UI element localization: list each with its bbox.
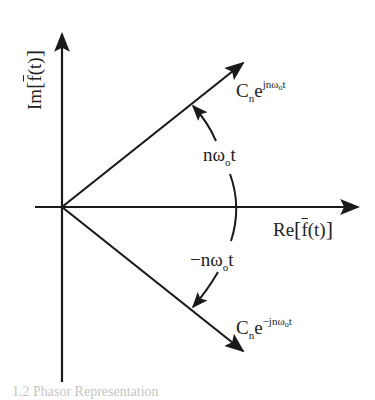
negative-phasor-arrow bbox=[62, 207, 243, 351]
negative-phasor-label: Cne−jnωot bbox=[236, 318, 292, 337]
negative-angle-arrow bbox=[193, 272, 218, 307]
negative-angle-label: −nωot bbox=[190, 250, 234, 269]
positive-phasor-label: Cnejnωot bbox=[236, 81, 285, 100]
positive-angle-label: nωot bbox=[203, 145, 236, 164]
y-axis-label: Im[f(t)] bbox=[23, 50, 45, 110]
positive-angle-arrow bbox=[193, 106, 216, 141]
x-axis-label: Re[f(t)] bbox=[273, 218, 333, 240]
figure-caption: 1.2 Phasor Representation bbox=[12, 384, 159, 400]
positive-phasor-arrow bbox=[62, 63, 243, 207]
